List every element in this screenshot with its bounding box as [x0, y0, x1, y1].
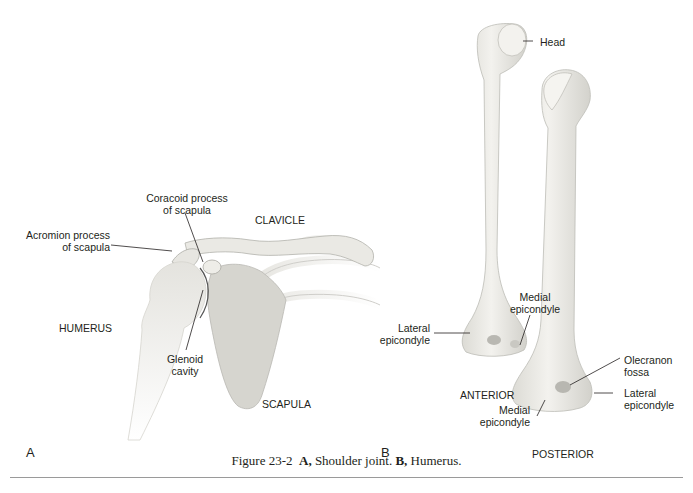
- label-coracoid-process: Coracoid process of scapula: [132, 192, 242, 216]
- label-line: Glenoid: [160, 353, 210, 365]
- label-line: epicondyle: [470, 416, 530, 428]
- label-line: Acromion process: [5, 229, 110, 241]
- label-scapula: SCAPULA: [262, 398, 311, 410]
- label-line: Coracoid process: [132, 192, 242, 204]
- label-head: Head: [540, 36, 565, 48]
- label-line: Medial: [470, 404, 530, 416]
- label-medial-epicondyle-anterior: Medial epicondyle: [505, 291, 565, 315]
- label-glenoid-cavity: Glenoid cavity: [160, 353, 210, 377]
- label-line: epicondyle: [505, 303, 565, 315]
- label-olecranon-fossa: Olecranon fossa: [624, 354, 672, 378]
- label-line: Lateral: [624, 387, 674, 399]
- scapula-shape: [207, 264, 286, 408]
- caption-b-letter: B,: [395, 453, 407, 468]
- caption-a-text: Shoulder joint.: [312, 453, 396, 468]
- humerus-posterior-drawing: [512, 70, 592, 412]
- humerus-arm-shape: [128, 262, 206, 440]
- label-line: fossa: [624, 366, 672, 378]
- label-line: Medial: [505, 291, 565, 303]
- label-humerus: HUMERUS: [59, 322, 112, 334]
- label-lateral-epicondyle-posterior: Lateral epicondyle: [624, 387, 674, 411]
- label-line: Lateral: [370, 322, 430, 334]
- figure-caption: Figure 23-2 A, Shoulder joint. B, Humeru…: [0, 453, 693, 469]
- label-lateral-epicondyle-anterior: Lateral epicondyle: [370, 322, 430, 346]
- label-line: cavity: [160, 365, 210, 377]
- caption-a-letter: A,: [299, 453, 312, 468]
- label-line: Olecranon: [624, 354, 672, 366]
- caption-b-text: Humerus.: [407, 453, 461, 468]
- caption-divider: [10, 477, 683, 478]
- label-line: of scapula: [5, 241, 110, 253]
- shoulder-joint-drawing: [128, 236, 380, 440]
- figure-number: Figure 23-2: [231, 453, 292, 468]
- label-anterior: ANTERIOR: [460, 389, 514, 401]
- label-clavicle: CLAVICLE: [255, 214, 305, 226]
- label-acromion-process: Acromion process of scapula: [5, 229, 110, 253]
- label-line: epicondyle: [370, 334, 430, 346]
- label-line: of scapula: [132, 204, 242, 216]
- label-line: epicondyle: [624, 399, 674, 411]
- label-medial-epicondyle-posterior: Medial epicondyle: [470, 404, 530, 428]
